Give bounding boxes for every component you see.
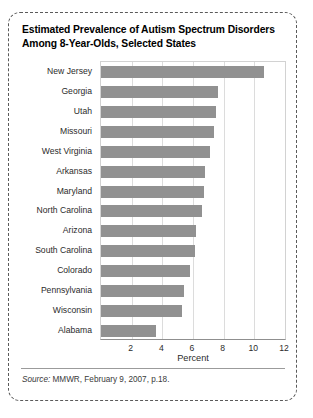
category-label: Arizona: [63, 224, 92, 236]
bar: [101, 285, 184, 297]
bar-chart: New JerseyGeorgiaUtahMissouriWest Virgin…: [22, 61, 286, 366]
category-label: Colorado: [57, 264, 92, 276]
figure-title: Estimated Prevalence of Autism Spectrum …: [22, 23, 284, 50]
bar: [101, 186, 204, 198]
category-label: Arkansas: [56, 165, 92, 177]
bar: [101, 245, 195, 257]
bar: [101, 305, 182, 317]
figure-card: Estimated Prevalence of Autism Spectrum …: [8, 12, 297, 401]
source-text: MMWR, February 9, 2007, p.18.: [50, 375, 169, 384]
category-label: Pennsylvania: [41, 284, 92, 296]
category-label: West Virginia: [42, 145, 92, 157]
category-label: Alabama: [58, 324, 92, 336]
gridline-4: [162, 62, 163, 339]
x-tick-label: 2: [128, 343, 133, 353]
x-tick-label: 10: [249, 343, 259, 353]
category-label: Missouri: [60, 125, 92, 137]
x-tick-label: 4: [159, 343, 164, 353]
bar: [101, 146, 210, 158]
figure-title-line-2: Among 8-Year-Olds, Selected States: [22, 37, 284, 51]
x-tick-label: 12: [279, 343, 289, 353]
gridline-12: [285, 62, 286, 339]
bar: [101, 265, 190, 277]
gridline-6: [193, 62, 194, 339]
bar: [101, 106, 216, 118]
gridline-10: [254, 62, 255, 339]
bar: [101, 66, 264, 78]
category-label: North Carolina: [37, 204, 92, 216]
category-label: Utah: [74, 105, 92, 117]
bar: [101, 205, 202, 217]
x-tick-label: 8: [220, 343, 225, 353]
footer-divider: [21, 368, 285, 369]
category-label: Wisconsin: [53, 304, 92, 316]
source-note: Source: MMWR, February 9, 2007, p.18.: [22, 375, 284, 384]
bar: [101, 225, 196, 237]
bar: [101, 86, 218, 98]
category-axis-labels: New JerseyGeorgiaUtahMissouriWest Virgin…: [22, 61, 96, 340]
bar: [101, 166, 205, 178]
x-axis-title: Percent: [100, 353, 286, 363]
category-label: South Carolina: [35, 244, 92, 256]
bar: [101, 126, 214, 138]
gridline-8: [224, 62, 225, 339]
category-label: Georgia: [61, 85, 92, 97]
plot-area: [100, 61, 286, 340]
source-label: Source:: [22, 375, 50, 384]
category-label: New Jersey: [47, 65, 92, 77]
x-tick-label: 6: [190, 343, 195, 353]
category-label: Maryland: [57, 185, 92, 197]
gridline-2: [132, 62, 133, 339]
figure-title-line-1: Estimated Prevalence of Autism Spectrum …: [22, 24, 275, 35]
bar: [101, 325, 156, 337]
